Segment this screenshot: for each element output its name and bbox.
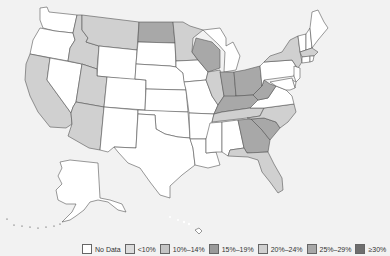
- state-hi[interactable]: [169, 216, 202, 234]
- state-sd[interactable]: [136, 42, 176, 67]
- legend: No Data <10% 10%–14% 15%–19% 20%–24% 25%…: [82, 243, 390, 255]
- legend-swatch: [258, 244, 268, 254]
- state-nj[interactable]: [294, 66, 300, 82]
- legend-label: No Data: [95, 246, 121, 253]
- legend-swatch: [160, 244, 170, 254]
- legend-swatch: [82, 244, 92, 254]
- legend-label: 25%–29%: [320, 246, 352, 253]
- legend-item-ge30: ≥30%: [355, 244, 386, 254]
- state-me[interactable]: [310, 10, 328, 48]
- state-wy[interactable]: [97, 46, 137, 80]
- state-ak[interactable]: [56, 160, 126, 222]
- legend-swatch: [307, 244, 317, 254]
- state-nd[interactable]: [138, 22, 175, 43]
- legend-item-10-14: 10%–14%: [160, 244, 205, 254]
- legend-label: 15%–19%: [222, 246, 254, 253]
- legend-label: ≥30%: [368, 246, 386, 253]
- legend-item-25-29: 25%–29%: [307, 244, 352, 254]
- state-fl[interactable]: [228, 148, 283, 193]
- us-choropleth-map: [0, 0, 335, 236]
- state-az[interactable]: [68, 102, 104, 150]
- legend-label: <10%: [138, 246, 156, 253]
- state-ct[interactable]: [302, 56, 310, 63]
- legend-item-15-19: 15%–19%: [209, 244, 254, 254]
- state-co[interactable]: [104, 77, 146, 110]
- state-ks[interactable]: [145, 89, 188, 112]
- legend-label: 10%–14%: [173, 246, 205, 253]
- legend-item-no-data: No Data: [82, 244, 121, 254]
- legend-item-20-24: 20%–24%: [258, 244, 303, 254]
- state-nm[interactable]: [100, 107, 138, 152]
- legend-swatch: [355, 244, 365, 254]
- legend-swatch: [125, 244, 135, 254]
- legend-swatch: [209, 244, 219, 254]
- legend-item-lt10: <10%: [125, 244, 156, 254]
- aleutian-islands: [6, 218, 60, 228]
- state-ri[interactable]: [310, 56, 314, 62]
- legend-label: 20%–24%: [271, 246, 303, 253]
